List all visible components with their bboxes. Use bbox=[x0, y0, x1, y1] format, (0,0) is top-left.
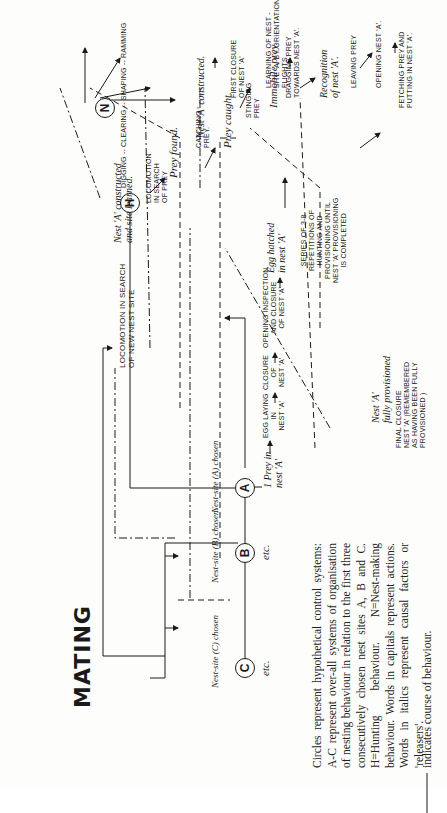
nest-site-b-label: Nest-site (B) chosen. bbox=[210, 508, 221, 583]
legend-row-solid: indicates course of behaviour. bbox=[420, 543, 434, 768]
stinging-prey-label: Stinging prey bbox=[245, 83, 261, 118]
figure-caption: Circles represent hypothetical control s… bbox=[310, 543, 426, 768]
locomotion-nest-site-label: Locomotion in search of new nest site bbox=[118, 264, 136, 368]
control-system-n-nest-making: N bbox=[95, 98, 115, 118]
egg-hatched-label: Egg hatched in nest 'A' bbox=[265, 223, 287, 273]
etc-label-c: etc. bbox=[260, 660, 271, 676]
figure-title: MATING bbox=[70, 605, 95, 708]
nest-constructed-label: Nest 'A' constructed. bbox=[195, 56, 206, 138]
prey-found-label: Prey found. bbox=[168, 127, 179, 178]
control-system-b: B bbox=[235, 543, 255, 563]
locomotion-prey-label: Locomotion in search of prey bbox=[145, 153, 169, 203]
fetching-prey-label: Fetching prey and putting in nest 'A'. bbox=[398, 32, 414, 108]
prey-caught-label: Prey caught. bbox=[222, 92, 233, 148]
series-repetitions-label: Series of 3-8 repetitions of hunting and… bbox=[300, 198, 348, 283]
digging-clearing-shaping-ramming-label: Digging -- Clearing -- Shaping -- Rammin… bbox=[120, 23, 128, 188]
first-closure-label: First closure of nest 'A' bbox=[230, 40, 246, 98]
control-system-a: A bbox=[235, 478, 255, 498]
nest-site-a-label: Nest-site (A) chosen bbox=[210, 441, 221, 513]
leaving-prey-label: Leaving prey bbox=[350, 35, 358, 88]
nest-site-c-label: Nest-site (C) chosen bbox=[210, 615, 221, 688]
closure-label: Closure of nest 'A' bbox=[262, 355, 286, 390]
prey-in-nest-label: 1 Prey in nest 'A' bbox=[262, 452, 284, 488]
opening-nest-label: Opening nest 'A'. bbox=[375, 21, 383, 88]
control-system-c: C bbox=[235, 658, 255, 678]
etc-label-b: etc. bbox=[260, 544, 271, 560]
learning-nest-site-label: Learning of nest - site 'A' by orientati… bbox=[265, 0, 289, 88]
legend-solid-line-icon bbox=[422, 773, 432, 813]
opening-inspection-label: Opening inspection and closure of nest '… bbox=[262, 267, 286, 348]
final-closure-label: Final closure nest 'A' (remembered as ha… bbox=[395, 362, 427, 448]
egg-laying-label: Egg laying in nest 'A' bbox=[262, 393, 286, 438]
recognition-nest-label: Recognition of nest 'A'. bbox=[318, 50, 340, 98]
nest-fully-provisioned-label: Nest 'A' fully provisioned bbox=[370, 356, 392, 423]
